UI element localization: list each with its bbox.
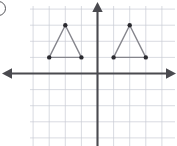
axes-group xyxy=(2,2,176,146)
vertex-point xyxy=(79,55,83,59)
screenshot-root xyxy=(0,0,177,146)
x-axis-right-arrow xyxy=(166,68,176,78)
coordinate-plane-svg xyxy=(0,0,177,146)
vertex-point xyxy=(128,23,132,27)
coordinate-plane-figure xyxy=(0,0,177,146)
vertex-point xyxy=(144,55,148,59)
vertex-point xyxy=(47,55,51,59)
x-axis-left-arrow xyxy=(2,68,12,78)
y-axis-up-arrow xyxy=(92,2,102,12)
vertex-point xyxy=(63,23,67,27)
vertex-point xyxy=(111,55,115,59)
